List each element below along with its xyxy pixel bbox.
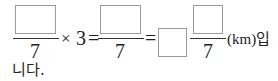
unit-label: (km)입: [227, 29, 270, 49]
fraction2-numerator-box[interactable]: [100, 5, 141, 34]
continuation-text: 니다.: [12, 60, 45, 80]
fraction1-numerator-box[interactable]: [15, 5, 56, 34]
equals-sign-2: =: [145, 28, 156, 48]
fraction3-denominator: 7: [203, 41, 213, 61]
multiply-sign: ×: [61, 29, 71, 49]
fraction3-bar: [190, 38, 226, 39]
fraction2-bar: [98, 38, 144, 39]
multiplier: 3: [76, 28, 86, 48]
fraction1-denominator: 7: [30, 41, 40, 61]
mixed-whole-box[interactable]: [158, 28, 187, 57]
fraction3-numerator-box[interactable]: [193, 5, 223, 34]
fraction2-denominator: 7: [115, 41, 125, 61]
fraction1-bar: [13, 38, 59, 39]
